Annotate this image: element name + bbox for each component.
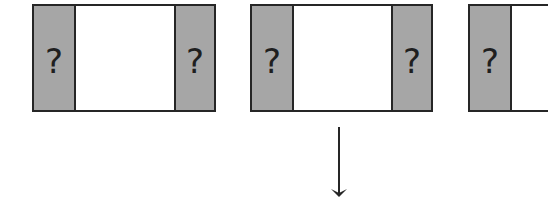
down-arrow-icon bbox=[0, 0, 518, 197]
